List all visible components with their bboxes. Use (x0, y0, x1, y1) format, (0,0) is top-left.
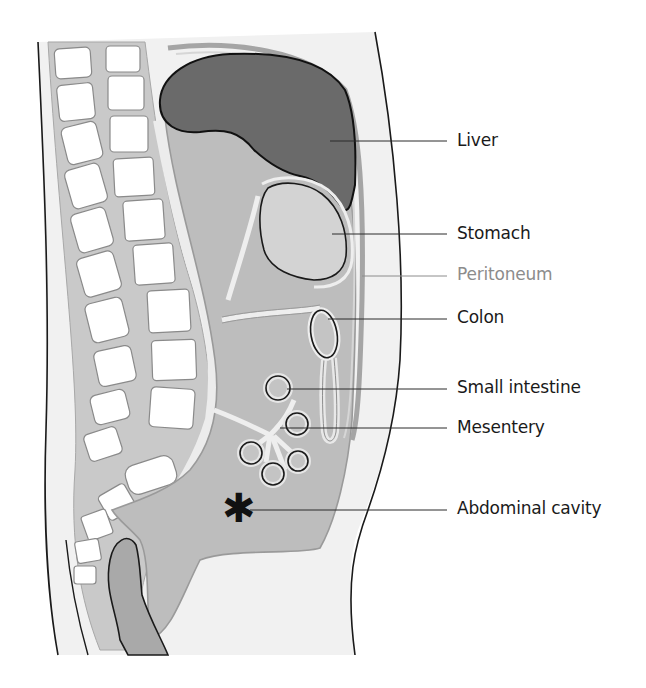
label-mesentery: Mesentery (457, 417, 545, 437)
asterisk-marker-icon: ✱ (222, 485, 256, 531)
label-small-intestine: Small intestine (457, 377, 581, 397)
abdomen-sagittal-diagram: ✱ (0, 0, 646, 688)
label-stomach: Stomach (457, 223, 531, 243)
label-peritoneum: Peritoneum (457, 264, 552, 284)
label-colon: Colon (457, 307, 504, 327)
label-abdominal-cavity: Abdominal cavity (457, 498, 601, 518)
label-liver: Liver (457, 130, 498, 150)
